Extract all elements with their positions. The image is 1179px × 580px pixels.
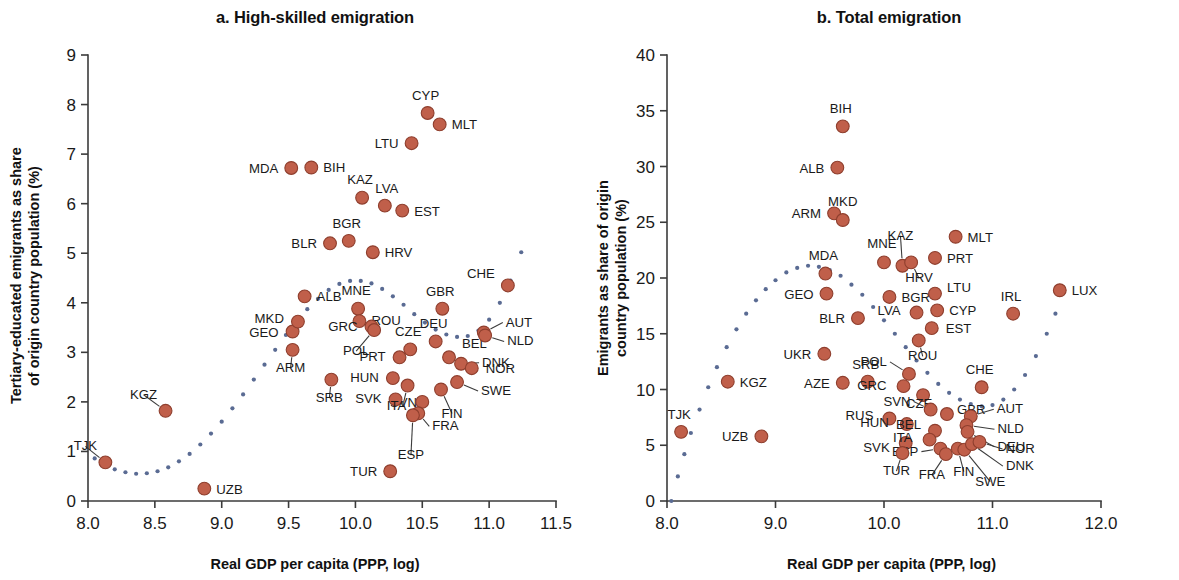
data-point-prt <box>929 252 942 265</box>
data-point-cze <box>404 343 417 356</box>
data-point-mda <box>285 162 298 175</box>
data-point-hrv <box>366 246 379 259</box>
data-point-kaz <box>356 191 369 204</box>
data-point-uzb <box>755 430 768 443</box>
data-point-cyp <box>931 304 944 317</box>
point-label-fin: FIN <box>953 464 974 479</box>
point-label-kaz: KAZ <box>888 228 914 243</box>
data-point-bgr <box>342 234 355 247</box>
data-point-irl <box>1007 307 1020 320</box>
y-tick-label: 3 <box>67 343 76 362</box>
data-point-fin <box>435 383 448 396</box>
point-label-bgr: BGR <box>901 290 930 305</box>
data-point-hun <box>386 372 399 385</box>
point-label-kgz: KGZ <box>740 375 767 390</box>
point-label-che: CHE <box>966 362 994 377</box>
y-tick-label: 30 <box>636 158 655 177</box>
x-tick-label: 9.5 <box>277 514 301 533</box>
point-label-mlt: MLT <box>452 117 477 132</box>
point-label-che: CHE <box>467 266 495 281</box>
point-label-mlt: MLT <box>968 230 993 245</box>
data-point-lva <box>378 199 391 212</box>
y-tick-label: 9 <box>67 46 76 65</box>
point-label-ltu: LTU <box>375 136 399 151</box>
point-label-fra: FRA <box>919 467 946 482</box>
data-point-kgz <box>159 404 172 417</box>
data-point-mkd <box>292 315 305 328</box>
point-label-nld: NLD <box>997 421 1023 436</box>
data-point-ltu <box>405 137 418 150</box>
point-label-esp: ESP <box>398 447 425 462</box>
y-tick-label: 4 <box>67 294 76 313</box>
data-point-tur <box>384 465 397 478</box>
point-label-cyp: CYP <box>412 88 439 103</box>
y-tick-label: 6 <box>67 195 76 214</box>
data-point-nld <box>479 329 492 342</box>
data-point-est <box>396 204 409 217</box>
point-label-nld: NLD <box>507 333 533 348</box>
point-label-ita: ITA <box>893 430 913 445</box>
label-leader-line <box>423 419 429 426</box>
data-point-bgr <box>883 291 896 304</box>
point-label-blr: BLR <box>819 311 845 326</box>
label-leader-line <box>490 323 502 330</box>
data-point-aze <box>836 376 849 389</box>
point-label-tjk: TJK <box>74 438 98 453</box>
point-label-tjk: TJK <box>667 407 691 422</box>
data-point-arm <box>286 343 299 356</box>
panel-a-plot: 01234567898.08.59.09.510.010.511.011.5TJ… <box>0 0 590 580</box>
data-point-nor <box>973 436 986 449</box>
point-label-geo: GEO <box>784 287 813 302</box>
point-label-nor: NOR <box>486 361 515 376</box>
data-point-prt <box>393 351 406 364</box>
y-tick-label: 0 <box>67 492 76 511</box>
point-label-mkd: MKD <box>828 194 857 209</box>
data-point-tjk <box>99 456 112 469</box>
point-label-mne: MNE <box>341 283 371 298</box>
point-label-mkd: MKD <box>255 311 284 326</box>
data-point-uzb <box>198 482 211 495</box>
point-label-swe: SWE <box>975 474 1005 489</box>
point-label-ita: ITA <box>387 398 407 413</box>
data-point-esp <box>407 409 420 422</box>
point-label-irl: IRL <box>1001 289 1022 304</box>
x-tick-label: 12.0 <box>1084 514 1117 533</box>
point-label-alb: ALB <box>317 289 342 304</box>
x-tick-label: 10.0 <box>867 514 900 533</box>
point-label-pol: POL <box>861 354 887 369</box>
data-point-lux <box>1053 284 1066 297</box>
emigration-scatter-figure: a. High-skilled emigration Tertiary-educ… <box>0 0 1179 580</box>
point-label-deu: DEU <box>420 316 448 331</box>
x-tick-label: 8.0 <box>655 514 679 533</box>
data-point-lva <box>910 306 923 319</box>
point-label-aze: AZE <box>804 376 830 391</box>
data-point-pol <box>903 367 916 380</box>
point-label-est: EST <box>414 204 440 219</box>
y-tick-label: 2 <box>67 393 76 412</box>
point-label-kgz: KGZ <box>130 387 157 402</box>
point-label-alb: ALB <box>799 161 824 176</box>
label-leader-line <box>492 338 504 342</box>
panel-high-skilled-emigration: a. High-skilled emigration Tertiary-educ… <box>0 0 590 580</box>
panel-b-x-axis-title: Real GDP per capita (PPP, log) <box>589 556 1179 572</box>
point-label-lva: LVA <box>878 303 901 318</box>
data-point-cyp <box>421 107 434 120</box>
point-label-cze: CZE <box>395 324 422 339</box>
point-label-mda: MDA <box>809 248 839 263</box>
point-label-hrv: HRV <box>905 270 933 285</box>
panel-total-emigration: b. Total emigration Emigrants as share o… <box>589 0 1179 580</box>
data-point-fra <box>939 448 952 461</box>
point-label-hrv: HRV <box>385 245 413 260</box>
data-point-svn <box>924 403 937 416</box>
point-label-hun: HUN <box>350 370 379 385</box>
y-tick-label: 35 <box>636 102 655 121</box>
panel-a-x-axis-title: Real GDP per capita (PPP, log) <box>0 556 590 572</box>
point-label-tur: TUR <box>350 464 377 479</box>
y-tick-label: 20 <box>636 269 655 288</box>
y-tick-label: 25 <box>636 213 655 232</box>
point-label-bih: BIH <box>323 160 345 175</box>
point-label-aut: AUT <box>997 401 1023 416</box>
point-label-bih: BIH <box>830 101 852 116</box>
data-point-mkd <box>836 214 849 227</box>
data-point-pol <box>368 324 381 337</box>
